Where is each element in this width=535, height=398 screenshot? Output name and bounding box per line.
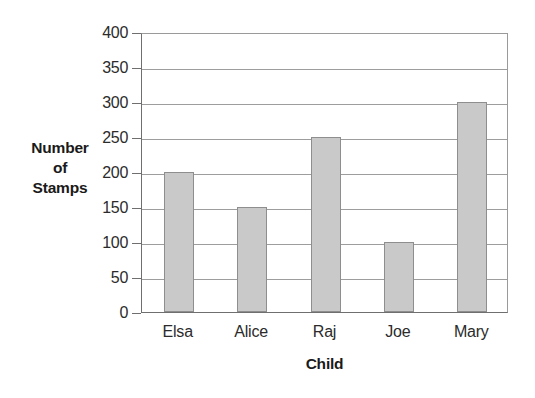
- gridline: [142, 69, 507, 70]
- bar: [384, 242, 414, 312]
- y-tick-label: 250: [84, 130, 128, 146]
- y-tick-mark: [132, 138, 141, 139]
- y-tick-label: 150: [84, 200, 128, 216]
- y-tick-label: 350: [84, 60, 128, 76]
- gridline: [142, 104, 507, 105]
- x-axis-title: Child: [141, 355, 508, 373]
- y-tick-mark: [132, 173, 141, 174]
- bar: [164, 172, 194, 312]
- y-tick-mark: [132, 103, 141, 104]
- bar: [237, 207, 267, 312]
- bar: [311, 137, 341, 312]
- y-tick-mark: [132, 243, 141, 244]
- y-tick-mark: [132, 68, 141, 69]
- plot-area: [141, 33, 508, 313]
- y-tick-label: 300: [84, 95, 128, 111]
- y-axis-title-line-3: Stamps: [8, 178, 112, 198]
- y-tick-label: 0: [84, 305, 128, 321]
- y-tick-label: 50: [84, 270, 128, 286]
- y-tick-mark: [132, 313, 141, 314]
- y-tick-mark: [132, 208, 141, 209]
- y-tick-mark: [132, 278, 141, 279]
- y-tick-label: 200: [84, 165, 128, 181]
- bar: [457, 102, 487, 312]
- x-tick-label: Mary: [426, 323, 516, 341]
- y-tick-mark: [132, 33, 141, 34]
- bar-chart-figure: Number of Stamps 05010015020025030035040…: [0, 0, 535, 398]
- y-tick-label: 400: [84, 25, 128, 41]
- y-tick-label: 100: [84, 235, 128, 251]
